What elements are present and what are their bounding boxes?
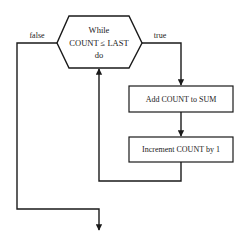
false-exit-arrow [17,43,99,230]
step-increment-count: Increment COUNT by 1 [129,137,233,162]
step-label: Increment COUNT by 1 [142,145,220,154]
true-path-arrow [142,43,181,85]
step-label: Add COUNT to SUM [146,95,217,104]
false-branch-label: false [29,31,45,40]
decision-line-2: COUNT ≤ LAST [69,38,129,48]
step-add-count-to-sum: Add COUNT to SUM [129,86,233,112]
decision-line-3: do [95,50,104,60]
decision-line-1: While [89,25,110,35]
while-decision-node: While COUNT ≤ LAST do [57,16,142,68]
while-loop-flowchart: While COUNT ≤ LAST do false true Add COU… [0,0,248,243]
true-branch-label: true [154,31,167,40]
